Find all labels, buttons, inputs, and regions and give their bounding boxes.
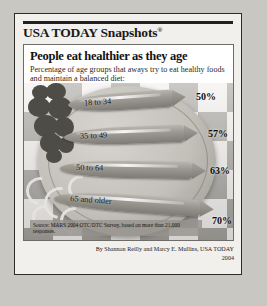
bar-value-18-to-34: 50% — [196, 91, 216, 102]
bar-label-35-to-49: 35 to 49 — [80, 131, 108, 141]
bar-label-50-to-64: 50 to 64 — [76, 163, 103, 172]
brand-title: USA TODAY Snapshots® — [23, 25, 162, 41]
broccoli-floret — [46, 149, 62, 163]
chart-title: People eat healthier as they age — [30, 49, 230, 64]
bar-label-18-to-34: 18 to 34 — [84, 97, 112, 108]
bar-value-65-and-older: 70% — [212, 215, 232, 226]
broccoli-illustration — [26, 83, 88, 175]
brand-rule — [23, 21, 233, 24]
year-label: 2004 — [23, 255, 234, 261]
bar-value-50-to-64: 63% — [210, 165, 230, 176]
brand-title-text: USA TODAY Snapshots — [23, 25, 157, 40]
byline: By Shannon Reilly and Marcy E. Mullins, … — [23, 246, 234, 252]
bar-label-65-and-older: 65 and older — [70, 194, 112, 206]
bar-value-35-to-49: 57% — [208, 128, 228, 139]
chart-graphic: 18 to 34 50% 35 to 49 57% 50 to 64 63% 6… — [24, 83, 233, 240]
source-box: Source: MARS 2004 OTC/DTC Survey, based … — [30, 220, 202, 236]
snapshot-card: USA TODAY Snapshots® People eat healthie… — [14, 13, 242, 275]
chart-panel: People eat healthier as they age Percent… — [23, 44, 234, 241]
broccoli-floret — [28, 97, 50, 117]
registered-trademark-icon: ® — [157, 26, 162, 34]
chart-subtitle: Percentage of age groups that aways try … — [30, 65, 226, 84]
source-text: Source: MARS 2004 OTC/DTC Survey, based … — [33, 222, 199, 234]
